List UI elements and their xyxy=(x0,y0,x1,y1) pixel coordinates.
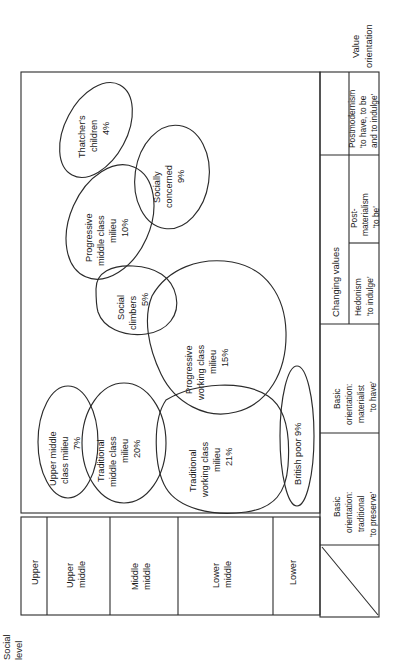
milieu-socially-concerned[interactable]: Socially concerned 9% xyxy=(128,120,216,233)
value-cell-hedonism: Hedonism 'to indulge' xyxy=(353,276,375,316)
value-orientation-caption-2: orientation xyxy=(363,24,374,68)
value-label-basic-traditional-1: Basic xyxy=(332,497,342,517)
value-label-post-materialism-3: 'to be' xyxy=(371,206,381,228)
level-label-upper: Upper xyxy=(30,560,40,585)
value-cell-post-materialism: Post- materialism 'to be' xyxy=(349,193,381,236)
level-label-lower-middle-1: Lower xyxy=(211,563,221,588)
milieu-label-pwc-4: 15% xyxy=(220,349,230,367)
milieu-label-twc-3: milieu xyxy=(212,448,222,472)
milieu-label-pmc-2: middle class xyxy=(96,215,106,266)
milieu-label-pmc-4: 10% xyxy=(120,219,130,237)
milieu-label-twc-2: working class xyxy=(200,441,210,498)
value-label-postmodernism-3: and to indulge' xyxy=(369,93,379,148)
level-cell-lower-middle: Lower middle xyxy=(211,561,233,588)
value-label-postmodernism-2: 'to have, to be xyxy=(358,95,368,148)
milieu-label-umc-2: class milieu xyxy=(60,437,70,484)
milieu-label-pmc-3: milieu xyxy=(108,219,118,243)
social-level-axis-caption: Social level xyxy=(1,634,24,660)
milieu-label-sc-2: concerned xyxy=(164,165,174,208)
milieu-label-twc-4: 21% xyxy=(224,448,234,466)
level-label-middle-middle-1: Middle xyxy=(130,563,140,590)
level-label-lower-middle-2: middle xyxy=(223,561,233,588)
milieu-british-poor[interactable]: British poor 9% xyxy=(280,366,314,506)
value-label-basic-materialist-2: orientation: xyxy=(344,384,354,425)
level-label-upper-middle-1: Upper xyxy=(65,563,75,588)
level-cell-upper-middle: Upper middle xyxy=(65,561,87,588)
level-cell-upper: Upper xyxy=(30,560,40,585)
value-label-post-materialism-2: materialism xyxy=(360,193,370,236)
value-cell-postmodernism: Postmodernism 'to have, to be and to ind… xyxy=(347,90,379,148)
social-level-caption-2: level xyxy=(13,641,24,660)
value-label-basic-traditional-3: traditional xyxy=(356,496,366,532)
changing-values-header: Changing values xyxy=(330,247,341,317)
milieu-label-pwc-2: working class xyxy=(196,344,206,401)
value-label-basic-traditional-4: 'to preserve' xyxy=(368,492,378,537)
milieu-label-thatchers-children-3: 4% xyxy=(101,122,111,135)
value-label-basic-materialist-3: materialist xyxy=(356,384,366,423)
value-cell-basic-materialist: Basic orientation: materialist 'to have' xyxy=(332,381,378,425)
milieu-progressive-working-class[interactable]: Progressive working class milieu 15% xyxy=(147,261,286,414)
value-group-changing-values: Changing values xyxy=(330,247,341,317)
milieu-thatchers-children[interactable]: Thatcher's children 4% xyxy=(45,70,148,189)
milieu-label-tmc-3: milieu xyxy=(120,439,130,463)
milieu-label-tmc-1: Traditional xyxy=(96,439,106,482)
milieu-label-bp-1: British poor 9% xyxy=(293,423,303,485)
milieu-label-thatchers-children-1: Thatcher's xyxy=(77,115,87,158)
milieu-label-scl-3: 5% xyxy=(140,293,150,306)
level-label-lower: Lower xyxy=(288,560,298,585)
value-cell-basic-traditional: Basic orientation: traditional 'to prese… xyxy=(332,492,378,537)
figure-canvas: Upper Upper middle Middle middle Lower m… xyxy=(0,0,397,662)
milieu-label-pmc-1: Progressive xyxy=(84,213,94,262)
milieu-upper-middle-class[interactable]: Upper middle class milieu 7% xyxy=(38,386,98,498)
milieu-label-scl-1: Social xyxy=(116,295,126,320)
milieu-label-umc-1: Upper middle xyxy=(48,431,58,486)
value-label-post-materialism-1: Post- xyxy=(349,208,359,228)
milieu-label-tmc-2: middle class xyxy=(108,436,118,487)
milieu-social-climbers[interactable]: Social climbers 5% xyxy=(96,266,177,335)
milieu-shape-traditional-working-class xyxy=(156,385,288,513)
milieu-label-sc-3: 9% xyxy=(176,170,186,183)
milieu-label-twc-1: Traditional xyxy=(188,449,198,492)
axis-corner-diagonal xyxy=(322,547,378,615)
milieu-label-umc-3: 7% xyxy=(72,437,82,450)
value-label-basic-materialist-1: Basic xyxy=(332,389,342,409)
value-label-hedonism-1: Hedonism xyxy=(353,278,363,316)
milieu-label-thatchers-children-2: children xyxy=(89,120,99,152)
level-label-middle-middle-2: middle xyxy=(142,563,152,590)
milieu-label-sc-1: Socially xyxy=(152,171,162,203)
value-label-postmodernism-1: Postmodernism xyxy=(347,90,357,148)
milieu-traditional-working-class[interactable]: Traditional working class milieu 21% xyxy=(156,385,288,513)
value-orientation-axis-caption: Value orientation xyxy=(350,24,374,68)
level-cell-middle-middle: Middle middle xyxy=(130,563,152,590)
milieu-diagram: Upper Upper middle Middle middle Lower m… xyxy=(0,0,397,662)
value-orientation-caption-1: Value xyxy=(350,35,361,58)
milieu-traditional-middle-class[interactable]: Traditional middle class milieu 20% xyxy=(82,383,166,503)
milieu-label-tmc-4: 20% xyxy=(132,440,142,458)
social-level-caption-1: Social xyxy=(1,634,12,660)
value-label-basic-traditional-2: orientation: xyxy=(344,492,354,533)
value-label-basic-materialist-4: 'to have' xyxy=(368,381,378,412)
level-label-upper-middle-2: middle xyxy=(77,561,87,588)
milieu-label-pwc-1: Progressive xyxy=(184,345,194,394)
level-cell-lower: Lower xyxy=(288,560,298,585)
milieu-label-scl-2: climbers xyxy=(128,295,138,330)
milieu-shape-progressive-working-class xyxy=(147,261,286,414)
value-label-hedonism-2: 'to indulge' xyxy=(365,276,375,316)
milieu-label-pwc-3: milieu xyxy=(208,350,218,374)
